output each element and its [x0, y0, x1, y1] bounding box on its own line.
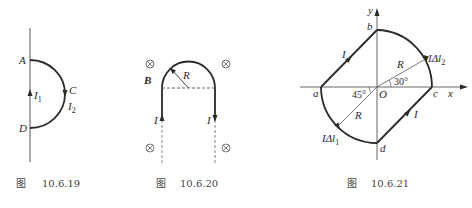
caption-number: 10.6.20 [180, 178, 218, 189]
label-I2: I2 [67, 100, 76, 115]
arrow-up-icon [160, 114, 165, 121]
caption-prefix: 图 [16, 178, 26, 189]
label-O: O [379, 88, 387, 100]
field-into-page-icon [146, 60, 154, 68]
field-into-page-icon [146, 144, 154, 152]
label-c: c [433, 87, 438, 99]
figure-10-6-19: A D C I1 I2 图 10.6.19 [16, 28, 80, 189]
label-I1: I1 [33, 89, 42, 104]
label-I-right: I [206, 114, 212, 126]
arrow-down-icon [63, 90, 68, 97]
field-into-page-icon [222, 144, 230, 152]
label-R-lower: R [354, 109, 362, 121]
angle-45-arc [369, 87, 371, 93]
label-x: x [447, 87, 453, 99]
caption-number: 10.6.19 [42, 178, 80, 189]
label-IdI1: IΔl1 [321, 132, 339, 147]
label-angle-30: 30° [394, 76, 408, 87]
label-B: B [143, 74, 151, 86]
angle-30-arc [389, 80, 391, 87]
label-angle-45: 45° [352, 89, 366, 100]
label-b: b [367, 20, 373, 32]
field-into-page-icon [222, 60, 230, 68]
label-IdI2: IΔl2 [427, 52, 445, 67]
x-axis-arrow-icon [460, 85, 468, 90]
label-R-upper: R [396, 58, 404, 70]
figure-10-6-20: R B I I 图 10.6.20 [143, 60, 230, 189]
label-D: D [18, 122, 27, 134]
figures-canvas: A D C I1 I2 图 10.6.19 R B I I [0, 0, 472, 208]
label-C: C [69, 84, 77, 96]
arrow-down-icon [213, 115, 218, 122]
y-axis-arrow-icon [375, 8, 380, 16]
label-I-ab: I [341, 48, 347, 60]
label-I-left: I [153, 114, 159, 126]
label-a: a [313, 87, 319, 99]
label-I-dc: I [413, 108, 419, 120]
figure-10-6-21: y x b a c d O R R 30° 45° I I IΔl2 IΔl1 … [300, 4, 468, 189]
label-A: A [18, 54, 26, 66]
label-R: R [182, 69, 190, 81]
arrow-up-icon [28, 89, 33, 96]
caption-number: 10.6.21 [371, 178, 409, 189]
caption-prefix: 图 [156, 178, 166, 189]
caption-prefix: 图 [347, 178, 357, 189]
label-y: y [367, 4, 373, 16]
label-d: d [380, 142, 386, 154]
